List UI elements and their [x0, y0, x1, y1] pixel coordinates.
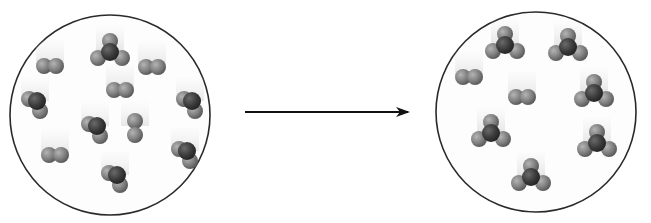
central-atom	[101, 43, 119, 61]
atom	[520, 89, 536, 105]
molecule-diatomic	[36, 38, 64, 74]
atom	[118, 82, 134, 98]
atom	[127, 127, 143, 143]
molecule-diatomic	[41, 127, 69, 163]
molecule-trigonal	[471, 105, 511, 147]
atom	[53, 147, 69, 163]
central-atom	[178, 142, 196, 160]
central-atom	[482, 124, 500, 142]
central-atom	[108, 166, 126, 184]
molecule-trigonal	[485, 17, 525, 59]
reactants-container	[10, 15, 210, 215]
reaction-diagram	[0, 0, 651, 223]
central-atom	[496, 36, 514, 54]
atom	[467, 69, 483, 85]
atom	[48, 58, 64, 74]
molecule-trigonal	[574, 65, 614, 107]
molecule-diatomic	[138, 39, 166, 75]
central-atom	[28, 92, 46, 110]
molecule-trigonal	[548, 19, 588, 61]
molecule-diatomic	[508, 69, 536, 105]
central-atom	[522, 168, 540, 186]
central-atom	[585, 84, 603, 102]
molecule-diatomic	[455, 49, 483, 85]
molecule-diatomic	[106, 62, 134, 98]
molecule-trigonal	[511, 149, 551, 191]
molecule-trigonal	[90, 24, 130, 66]
atom	[127, 113, 143, 129]
products-container	[436, 12, 636, 212]
atom	[150, 59, 166, 75]
central-atom	[559, 38, 577, 56]
central-atom	[588, 134, 606, 152]
molecule-trigonal	[577, 115, 617, 157]
central-atom	[88, 117, 106, 135]
central-atom	[183, 92, 201, 110]
diagram-canvas	[0, 0, 651, 223]
